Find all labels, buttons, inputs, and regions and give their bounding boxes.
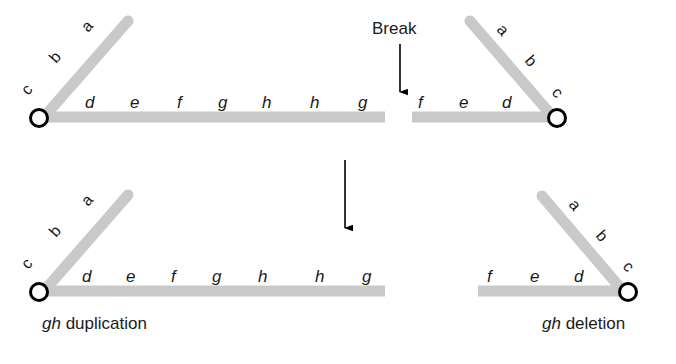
- bottom-right-caption-italic: gh: [542, 314, 561, 333]
- bottom-left-caption: gh duplication: [42, 314, 147, 333]
- top-left-gene-label-h2: h: [310, 93, 319, 112]
- top-left-gene-label-g2: g: [358, 93, 368, 112]
- break-annotation: Break: [372, 19, 417, 92]
- chromosome-rearrangement-figure: c b a d e f g h h g Break a b: [0, 0, 676, 364]
- bottom-left-gene-label-g: g: [212, 267, 222, 286]
- bottom-right-gene-label-f: f: [487, 267, 494, 286]
- bottom-right-centromere: [620, 284, 637, 301]
- bottom-left-centromere: [31, 284, 48, 301]
- bottom-right-caption: gh deletion: [542, 314, 625, 333]
- top-right-arm-label-a: a: [494, 21, 513, 39]
- top-left-chromosome: c b a d e f g h h g: [18, 17, 385, 127]
- bottom-right-arm-label-a: a: [566, 196, 585, 214]
- bottom-left-gene-label-e: e: [126, 267, 135, 286]
- top-left-gene-label-g: g: [218, 93, 228, 112]
- break-label: Break: [372, 19, 417, 38]
- top-left-gene-label-e: e: [130, 93, 139, 112]
- top-right-gene-label-e: e: [459, 93, 468, 112]
- bottom-right-gene-label-d: d: [574, 267, 584, 286]
- bottom-left-arm-label-c: c: [18, 255, 36, 272]
- bottom-left-gene-label-d: d: [82, 267, 92, 286]
- bottom-right-chromosome: a b c f e d gh deletion: [478, 196, 638, 333]
- top-left-gene-label-h1: h: [262, 93, 271, 112]
- top-left-arm-label-c: c: [18, 81, 36, 98]
- bottom-left-caption-rest: duplication: [61, 314, 147, 333]
- bottom-right-arm-label-b: b: [593, 227, 612, 245]
- bottom-left-gene-label-f: f: [171, 267, 178, 286]
- top-right-gene-label-d: d: [502, 93, 512, 112]
- bottom-left-caption-italic: gh: [42, 314, 61, 333]
- top-left-gene-label-d: d: [85, 93, 95, 112]
- top-right-chromosome: a b c f e d: [412, 21, 567, 127]
- top-left-gene-label-f: f: [177, 93, 184, 112]
- bottom-left-arm-label-b: b: [46, 222, 65, 240]
- bottom-left-chromosome: c b a d e f g h h g gh duplication: [18, 191, 385, 333]
- bottom-left-arm-label-a: a: [78, 191, 97, 209]
- top-left-centromere: [31, 110, 48, 127]
- top-right-short-arm: [470, 21, 553, 117]
- top-right-centromere: [549, 110, 566, 127]
- top-right-gene-label-f: f: [418, 93, 425, 112]
- top-right-arm-label-c: c: [549, 84, 567, 101]
- bottom-left-gene-label-g2: g: [362, 267, 372, 286]
- bottom-right-arm-label-c: c: [620, 258, 638, 275]
- top-left-arm-label-b: b: [46, 48, 65, 66]
- top-left-arm-label-a: a: [78, 17, 97, 35]
- bottom-right-gene-label-e: e: [530, 267, 539, 286]
- top-right-arm-label-b: b: [522, 52, 541, 70]
- bottom-left-gene-label-h2: h: [315, 267, 324, 286]
- bottom-right-caption-rest: deletion: [561, 314, 625, 333]
- diagram-canvas: c b a d e f g h h g Break a b: [0, 0, 676, 364]
- bottom-left-gene-label-h1: h: [258, 267, 267, 286]
